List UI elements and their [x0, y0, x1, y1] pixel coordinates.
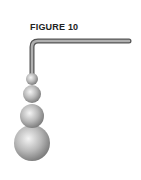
sphere-medium	[20, 104, 44, 128]
sphere-tiny	[26, 73, 38, 85]
spheres	[14, 73, 50, 161]
pendulum-diagram	[0, 0, 141, 180]
sphere-large	[14, 125, 50, 161]
rod	[32, 41, 129, 76]
sphere-small	[23, 85, 41, 103]
